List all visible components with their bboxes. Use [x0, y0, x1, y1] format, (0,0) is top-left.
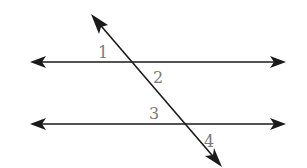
angle-label-1: 1: [98, 43, 108, 62]
angle-label-3: 3: [149, 104, 159, 123]
upper-parallel-line: [30, 56, 286, 68]
transversal-line: [91, 14, 222, 167]
angle-label-4: 4: [204, 132, 214, 151]
angle-label-2: 2: [153, 68, 163, 87]
parallel-lines-transversal-diagram: 1 2 3 4: [0, 0, 307, 168]
